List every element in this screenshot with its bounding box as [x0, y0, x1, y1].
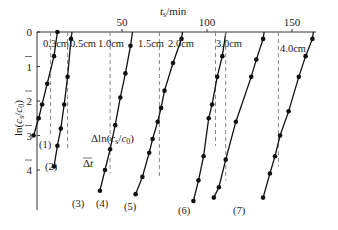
data-point [147, 150, 152, 155]
series-label: 3.0cm [216, 38, 242, 49]
data-point [310, 37, 315, 42]
data-point [31, 133, 36, 138]
data-point [45, 81, 50, 86]
data-point [212, 195, 217, 200]
data-point [65, 75, 70, 80]
series-id-label: (4) [96, 198, 109, 210]
ln-concentration-vs-time-chart: 5010015001234ts/minln(cs/c0)0.3cm(1)0.5c… [0, 0, 338, 230]
y-tick-label: 0 [27, 26, 33, 38]
data-point [59, 126, 64, 131]
data-point [103, 168, 108, 173]
data-point [171, 61, 176, 66]
data-point [36, 116, 41, 121]
data-point [220, 54, 225, 59]
data-point [155, 119, 160, 124]
data-point [273, 154, 278, 159]
series-id-label: (6) [178, 205, 191, 217]
series-id-label: (7) [233, 205, 246, 217]
series-label: 1.5cm [138, 38, 164, 49]
x-tick-label: 50 [117, 16, 129, 28]
data-point [254, 57, 259, 62]
data-point [140, 175, 145, 180]
data-point [108, 147, 113, 152]
data-point [261, 37, 266, 42]
data-point [162, 88, 167, 93]
data-point [215, 75, 220, 80]
series-id-label: (3) [72, 198, 85, 210]
data-point [223, 157, 228, 162]
series-id-label: (1) [39, 139, 52, 151]
series-id-label: (5) [124, 201, 137, 213]
data-point [113, 123, 118, 128]
data-point [123, 71, 128, 76]
data-point [55, 144, 60, 149]
x-tick-label: 150 [284, 16, 301, 28]
data-point [62, 102, 67, 107]
data-point [133, 192, 138, 197]
y-tick-label: 2 [27, 95, 33, 107]
data-point [98, 188, 103, 193]
data-point [52, 54, 57, 59]
series-label: 4.0cm [280, 43, 306, 54]
data-point [286, 109, 291, 114]
data-point [191, 199, 196, 204]
series-label: 2.0cm [168, 38, 194, 49]
data-point [196, 178, 201, 183]
series-line-1.0cm [100, 32, 133, 191]
data-point [278, 133, 283, 138]
data-point [268, 171, 273, 176]
data-point [261, 195, 266, 200]
series-id-label: (2) [45, 161, 58, 173]
y-tick-label: 4 [27, 164, 33, 176]
data-point [234, 119, 239, 124]
data-point [118, 95, 123, 100]
data-point [55, 30, 60, 35]
data-point [159, 106, 164, 111]
delta-ln-annotation: Δln(cs/c0) [91, 132, 134, 146]
x-axis-title: ts/min [160, 5, 187, 19]
data-point [217, 185, 222, 190]
data-point [297, 75, 302, 80]
x-tick-label: 100 [199, 16, 216, 28]
data-point [40, 102, 45, 107]
data-point [249, 75, 254, 80]
data-point [150, 137, 155, 142]
data-point [206, 116, 211, 121]
delta-t-annotation: Δt [83, 157, 94, 169]
series-label: 1.0cm [98, 38, 124, 49]
series-label: 0.3cm [43, 38, 69, 49]
y-axis-title: ln(cs/c0) [12, 100, 26, 136]
series-label: 0.5cm [70, 38, 96, 49]
chart-container: 5010015001234ts/minln(cs/c0)0.3cm(1)0.5c… [0, 0, 338, 230]
data-point [303, 54, 308, 59]
data-point [201, 154, 206, 159]
data-point [128, 44, 133, 49]
y-tick-label: 1 [27, 61, 33, 73]
data-point [210, 102, 215, 107]
